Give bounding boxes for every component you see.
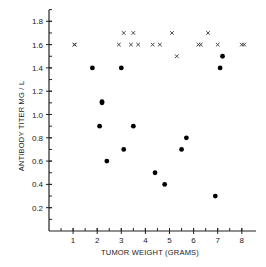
x-tick-label: 3 [119,236,124,245]
y-tick-label: 0.4 [32,180,44,189]
cross-marker [151,43,155,47]
filled-circle-marker [218,66,223,71]
filled-circle-marker [131,124,136,129]
axes [49,10,256,231]
filled-circle-marker [90,66,95,71]
x-axis-title: TUMOR WEIGHT (GRAMS) [101,248,199,257]
x-tick-label: 1 [71,236,76,245]
filled-circle-marker [104,159,109,164]
cross-marker [216,43,220,47]
data-points [73,31,247,198]
cross-marker [206,31,210,35]
x-tick-label: 2 [95,236,100,245]
y-tick-label: 0.6 [32,157,44,166]
filled-circle-marker [162,182,167,187]
cross-marker [129,43,133,47]
filled-circle-marker [100,99,105,104]
x-tick-label: 5 [167,236,172,245]
cross-marker [73,43,77,47]
x-tick-label: 6 [191,236,196,245]
cross-marker [132,31,136,35]
filled-circle-marker [184,135,189,140]
x-tick-label: 8 [240,236,245,245]
filled-circle-marker [213,194,218,199]
cross-marker [170,31,174,35]
x-tick-label: 4 [143,236,148,245]
cross-marker [117,43,121,47]
scatter-chart: 0.20.40.60.81.01.21.41.61.8 12345678 TUM… [0,0,266,267]
filled-circle-marker [119,66,124,71]
y-tick-label: 1.0 [32,111,44,120]
cross-marker [242,43,246,47]
filled-circle-marker [179,147,184,152]
y-tick-label: 1.4 [32,64,44,73]
y-tick-label: 0.8 [32,134,44,143]
filled-circle-marker [121,147,126,152]
cross-marker [199,43,203,47]
filled-circle-marker [153,170,158,175]
cross-marker [175,54,179,58]
cross-marker [122,31,126,35]
cross-marker [136,43,140,47]
y-tick-label: 1.8 [32,17,44,26]
x-tick-label: 7 [215,236,220,245]
y-tick-label: 0.2 [32,204,44,213]
y-tick-label: 1.6 [32,41,44,50]
filled-circle-marker [220,54,225,59]
cross-marker [158,43,162,47]
filled-circle-marker [97,124,102,129]
y-axis-title: ANTIBODY TITER MG / L [17,81,26,172]
y-tick-label: 1.2 [32,87,44,96]
